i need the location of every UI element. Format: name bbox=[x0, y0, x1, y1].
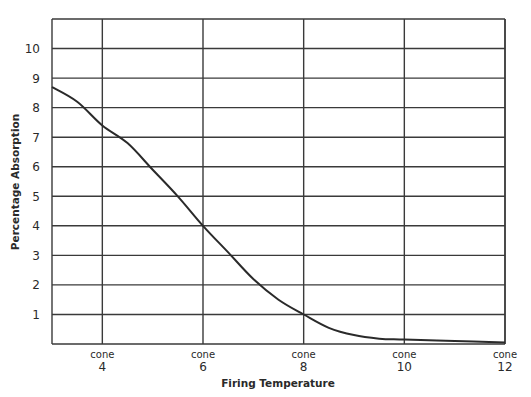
x-tick-label: 10 bbox=[397, 360, 412, 374]
x-tick-labels: cone4cone6cone8cone10cone12 bbox=[90, 349, 517, 374]
x-tick-label: 4 bbox=[99, 360, 107, 374]
y-tick-label: 7 bbox=[32, 131, 40, 145]
y-tick-label: 10 bbox=[25, 42, 40, 56]
x-tick-label: 8 bbox=[300, 360, 308, 374]
y-tick-label: 5 bbox=[32, 190, 40, 204]
y-tick-label: 1 bbox=[32, 308, 40, 322]
x-tick-prefix: cone bbox=[392, 349, 416, 360]
x-axis-label: Firing Temperature bbox=[221, 377, 335, 389]
x-tick-label: 12 bbox=[497, 360, 512, 374]
grid bbox=[52, 19, 505, 344]
y-tick-label: 3 bbox=[32, 249, 40, 263]
y-tick-label: 2 bbox=[32, 278, 40, 292]
x-tick-prefix: cone bbox=[90, 349, 114, 360]
x-tick-label: 6 bbox=[199, 360, 207, 374]
x-tick-prefix: cone bbox=[292, 349, 316, 360]
y-tick-labels: 12345678910 bbox=[25, 42, 40, 322]
y-tick-label: 9 bbox=[32, 72, 40, 86]
y-tick-label: 4 bbox=[32, 219, 40, 233]
x-tick-prefix: cone bbox=[191, 349, 215, 360]
y-tick-label: 8 bbox=[32, 101, 40, 115]
absorption-chart: 12345678910 cone4cone6cone8cone10cone12 … bbox=[0, 0, 531, 397]
y-axis-label: Percentage Absorption bbox=[9, 114, 21, 250]
x-tick-prefix: cone bbox=[493, 349, 517, 360]
y-tick-label: 6 bbox=[32, 160, 40, 174]
absorption-curve bbox=[52, 87, 505, 343]
